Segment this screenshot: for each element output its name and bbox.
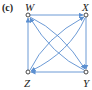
edge-x-z bbox=[31, 18, 85, 71]
edge-z-x bbox=[30, 17, 84, 70]
node-w bbox=[26, 13, 30, 17]
directed-graph bbox=[0, 0, 92, 90]
node-y bbox=[84, 70, 88, 74]
node-x bbox=[84, 13, 88, 17]
node-z bbox=[26, 70, 30, 74]
edge-w-y bbox=[30, 17, 85, 69]
edge-y-w bbox=[30, 18, 84, 70]
